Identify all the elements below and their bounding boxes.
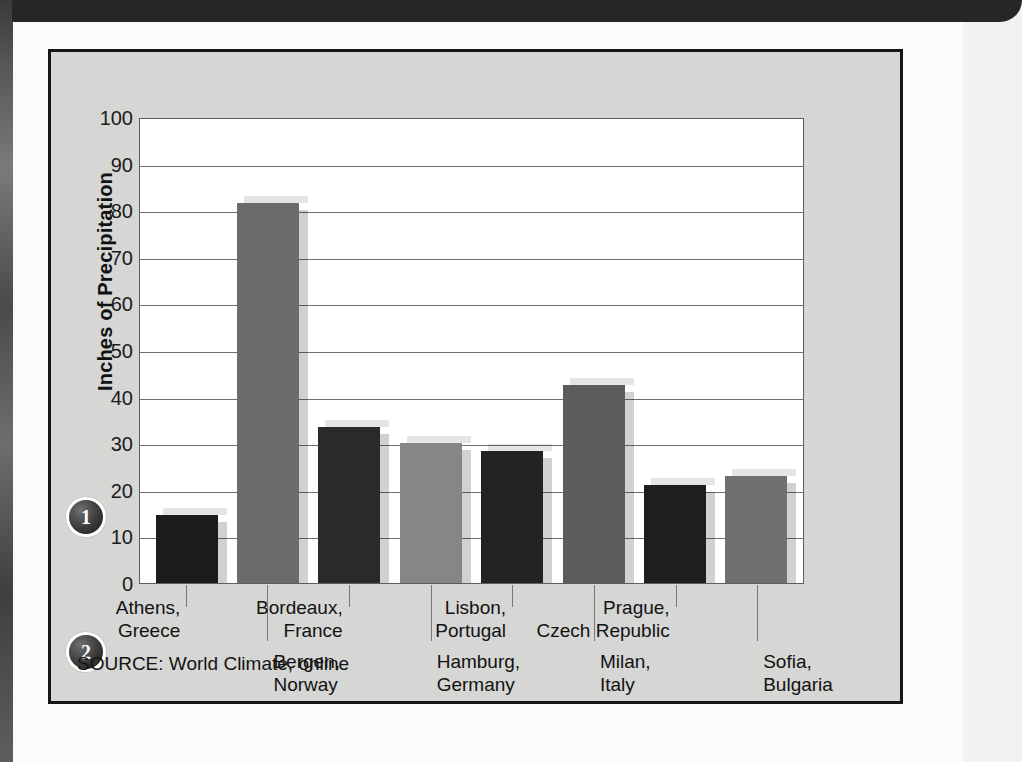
bar-top-shadow [407,436,471,443]
x-label-line2: Italy [600,673,651,696]
bar-slot [472,119,553,583]
bar[interactable] [563,385,625,583]
y-tick-label: 90 [111,153,133,176]
bar[interactable] [725,476,787,583]
page-left-rail [0,0,13,762]
bar-top-shadow [244,196,308,203]
source-prefix: SOURCE: [77,653,164,674]
bar-side-shadow [218,522,227,583]
x-label-line2: France [256,619,343,642]
bar-face [563,385,625,583]
x-label: Milan,Italy [600,650,651,696]
y-tick-label: 30 [111,433,133,456]
figure-panel: Inches of Precipitation 1009080706050403… [48,49,903,704]
y-tick-label: 10 [111,526,133,549]
bar-side-shadow [706,492,715,583]
x-label-line2: Portugal [435,619,506,642]
page-body: Inches of Precipitation 1009080706050403… [13,22,963,762]
bar-face [237,203,299,583]
y-tick-label: 70 [111,246,133,269]
bar-side-shadow [380,434,389,583]
x-label-line1: Bordeaux, [256,597,343,618]
x-label-line2: Czech Republic [537,619,670,642]
x-label-line1: Lisbon, [445,597,506,618]
x-label-line2: Bulgaria [763,673,833,696]
bar-slot [146,119,227,583]
bar-series [140,119,803,583]
y-tick-label: 50 [111,340,133,363]
bar-side-shadow [625,392,634,583]
x-label-line2: Germany [437,673,520,696]
bar-top-shadow [325,420,389,427]
bar-slot [553,119,634,583]
bar-top-shadow [732,469,796,476]
bar-top-shadow [651,478,715,485]
plot-area [139,118,804,584]
bar-top-shadow [488,444,552,451]
x-label: Lisbon,Portugal [435,596,506,642]
x-axis-category-labels: Athens,GreeceBergen,NorwayBordeaux,Franc… [139,592,804,712]
bar-face [725,476,787,583]
bar[interactable] [400,443,462,583]
bar-side-shadow [787,483,796,583]
page-header-banner [12,0,1022,22]
source-suffix: , online [288,653,349,674]
y-tick-label: 40 [111,386,133,409]
x-label-line1: Milan, [600,651,651,672]
x-label: Sofia,Bulgaria [763,650,833,696]
bar-slot [716,119,797,583]
bar-side-shadow [462,450,471,583]
y-tick-label: 0 [122,573,133,596]
y-tick-label: 20 [111,479,133,502]
x-label-line2: Greece [116,619,180,642]
bar-face [156,515,218,583]
bar-slot [227,119,308,583]
source-note: SOURCE: World Climate, online [77,653,349,675]
bar-face [400,443,462,583]
bar[interactable] [644,485,706,583]
x-label: Hamburg,Germany [437,650,520,696]
bar-slot [634,119,715,583]
callout-badge-1[interactable]: 1 [69,500,103,534]
bar[interactable] [481,451,543,583]
bar-side-shadow [299,210,308,583]
source-title: World Climate [169,653,288,674]
y-tick-label: 100 [100,107,133,130]
bar-side-shadow [543,458,552,583]
x-label-line1: Prague, [603,597,670,618]
x-label: Athens,Greece [116,596,180,642]
bar[interactable] [318,427,380,583]
x-label-line1: Athens, [116,597,180,618]
bar-slot [390,119,471,583]
bar-top-shadow [570,378,634,385]
x-label: Bordeaux,France [256,596,343,642]
bar-slot [309,119,390,583]
bar[interactable] [156,515,218,583]
bar-face [481,451,543,583]
x-label: Prague,Czech Republic [537,596,670,642]
y-tick-label: 60 [111,293,133,316]
bar[interactable] [237,203,299,583]
x-label-line1: Sofia, [763,651,812,672]
bar-face [644,485,706,583]
y-tick-label: 80 [111,200,133,223]
bar-face [318,427,380,583]
bar-top-shadow [163,508,227,515]
x-label-line1: Hamburg, [437,651,520,672]
x-label-line2: Norway [273,673,340,696]
